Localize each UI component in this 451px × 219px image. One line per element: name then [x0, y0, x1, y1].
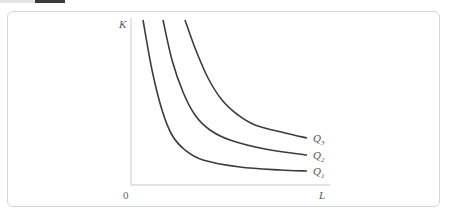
- y-axis-label: K: [118, 18, 127, 30]
- isoquant-diagram: K 0 L Q3 Q2 Q1: [0, 0, 451, 219]
- curve-label-q2: Q2: [313, 149, 325, 164]
- isoquant-curve-q2: [163, 20, 307, 155]
- origin-label: 0: [123, 189, 129, 201]
- x-axis-label: L: [318, 189, 325, 201]
- curve-label-q3: Q3: [313, 132, 325, 147]
- curve-label-q1: Q1: [313, 165, 324, 180]
- isoquant-curve-q3: [185, 20, 307, 138]
